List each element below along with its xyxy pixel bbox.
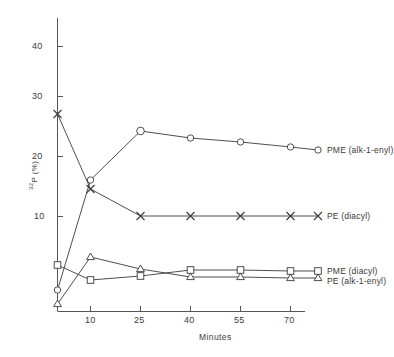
- data-point: [87, 277, 94, 284]
- data-point: [137, 127, 145, 135]
- legend-label-pe-alk-1-enyl: PE (alk-1-enyl): [327, 276, 386, 286]
- data-point: [54, 287, 60, 293]
- x-tick-label-25: 25: [134, 315, 145, 325]
- y-axis-title-superscript: 32: [28, 183, 34, 190]
- y-tick-label-10: 10: [34, 211, 45, 221]
- data-point: [287, 274, 295, 281]
- legend-marker-triangle: [314, 274, 322, 281]
- data-point: [54, 300, 62, 307]
- y-tick-label-30: 30: [32, 91, 43, 101]
- y-axis-ticks: [58, 47, 64, 217]
- data-point: [287, 144, 293, 150]
- data-point: [87, 177, 93, 183]
- x-tick-label-55: 55: [234, 315, 245, 325]
- x-tick-label-10: 10: [85, 315, 96, 325]
- data-point: [187, 135, 193, 141]
- x-axis-ticks: [91, 306, 291, 312]
- legend-label-pme-diacyl: PME (diacyl): [327, 266, 378, 276]
- series-line-pme-alk-1-enyl: [58, 131, 319, 290]
- x-tick-label-40: 40: [184, 315, 195, 325]
- data-point: [54, 262, 61, 269]
- y-axis-title-rest: P (%): [30, 161, 39, 183]
- series-pme-diacyl: [54, 262, 321, 284]
- data-point: [137, 273, 144, 280]
- series-pe-diacyl: [54, 110, 323, 220]
- legend-marker-circle: [315, 147, 321, 153]
- y-tick-label-40: 40: [32, 41, 43, 51]
- axes: [58, 18, 306, 312]
- marker-cross-group: [54, 110, 323, 220]
- data-point: [237, 139, 243, 145]
- y-tick-label-20: 20: [32, 151, 43, 161]
- data-point: [87, 253, 95, 260]
- legend-label-pme-alk-1-enyl: PME (alk-1-enyl): [327, 145, 394, 155]
- data-point: [237, 273, 245, 280]
- legend-label-pe-diacyl: PE (diacyl): [327, 211, 370, 221]
- x-axis-title: Minutes: [199, 332, 232, 342]
- series-line-pe-alk-1-enyl: [58, 257, 319, 304]
- x-tick-label-70: 70: [284, 315, 295, 325]
- series-line-pe-diacyl: [58, 114, 319, 216]
- y-axis-title: 32P (%): [28, 161, 39, 190]
